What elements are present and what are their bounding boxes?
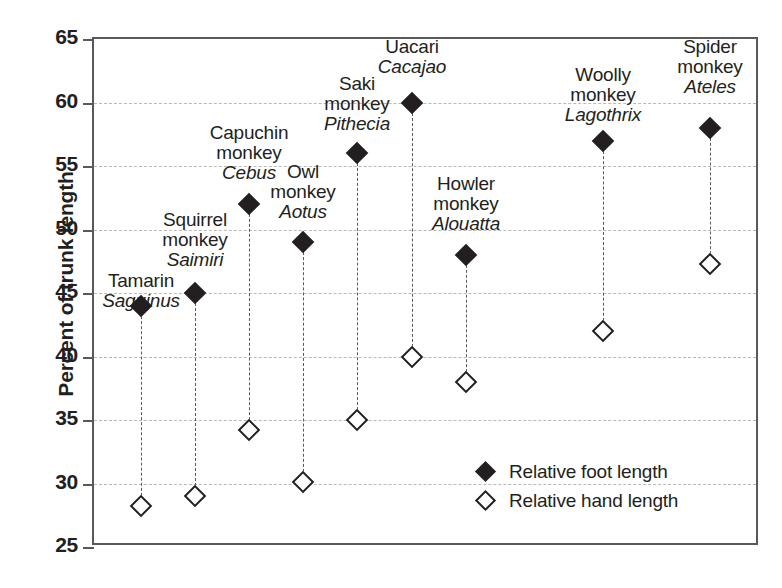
species-label: UacariCacajao <box>352 37 472 77</box>
species-genus-name: Ateles <box>650 77 770 97</box>
hollow-diamond-icon <box>475 490 496 511</box>
y-tick-label-55: 55 <box>18 153 78 174</box>
species-genus-name: Lagothrix <box>543 105 663 125</box>
y-tick-65 <box>83 39 94 41</box>
legend-item-foot: Relative foot length <box>476 457 678 486</box>
species-genus-name: Saguinus <box>81 291 201 311</box>
species-genus-name: Pithecia <box>297 114 417 134</box>
legend-label-hand: Relative hand length <box>509 486 678 515</box>
gridline-35 <box>94 420 756 421</box>
species-common-name-line: monkey <box>135 230 255 250</box>
y-tick-label-30: 30 <box>18 471 78 492</box>
species-genus-name: Saimiri <box>135 250 255 270</box>
species-common-name-line: Owl <box>243 162 363 182</box>
connector-stem <box>195 293 196 496</box>
data-point-hand-length <box>346 409 369 432</box>
y-tick-label-25: 25 <box>18 534 78 555</box>
species-common-name-line: Howler <box>406 174 526 194</box>
species-label: SquirrelmonkeySaimiri <box>135 210 255 270</box>
y-tick-label-60: 60 <box>18 90 78 111</box>
scatter-chart-figure: Percent of trunk length TamarinSaguinusS… <box>0 0 782 588</box>
species-common-name-line: Woolly <box>543 65 663 85</box>
data-point-hand-length <box>130 495 153 518</box>
y-tick-label-50: 50 <box>18 217 78 238</box>
connector-stem <box>603 141 604 332</box>
data-point-hand-length <box>184 485 207 508</box>
data-point-foot-length <box>592 129 615 152</box>
species-genus-name: Aotus <box>243 202 363 222</box>
species-label: TamarinSaguinus <box>81 271 201 311</box>
species-common-name-line: monkey <box>543 85 663 105</box>
y-tick-55 <box>83 166 94 168</box>
species-common-name-line: Tamarin <box>81 271 201 291</box>
species-label: SakimonkeyPithecia <box>297 74 417 134</box>
species-common-name-line: monkey <box>189 143 309 163</box>
data-point-hand-length <box>238 419 261 442</box>
species-common-name-line: Squirrel <box>135 210 255 230</box>
species-common-name-line: Spider <box>650 37 770 57</box>
y-tick-label-45: 45 <box>18 280 78 301</box>
y-tick-label-35: 35 <box>18 407 78 428</box>
data-point-hand-length <box>455 371 478 394</box>
species-genus-name: Cacajao <box>352 57 472 77</box>
species-label: SpidermonkeyAteles <box>650 37 770 97</box>
species-common-name-line: Saki <box>297 74 417 94</box>
data-point-foot-length <box>292 231 315 254</box>
chart-legend: Relative foot length Relative hand lengt… <box>476 457 678 515</box>
data-point-foot-length <box>455 244 478 267</box>
y-tick-30 <box>83 484 94 486</box>
species-common-name-line: Uacari <box>352 37 472 57</box>
plot-area: TamarinSaguinusSquirrelmonkeySaimiriCapu… <box>92 37 758 545</box>
data-point-foot-length <box>699 117 722 140</box>
species-common-name-line: Capuchin <box>189 123 309 143</box>
y-tick-60 <box>83 103 94 105</box>
y-tick-label-65: 65 <box>18 26 78 47</box>
y-tick-25 <box>83 547 94 549</box>
y-tick-label-40: 40 <box>18 344 78 365</box>
y-tick-40 <box>83 357 94 359</box>
y-tick-35 <box>83 420 94 422</box>
data-point-hand-length <box>292 471 315 494</box>
species-common-name-line: monkey <box>650 57 770 77</box>
legend-label-foot: Relative foot length <box>509 457 668 486</box>
legend-item-hand: Relative hand length <box>476 486 678 515</box>
connector-stem <box>466 255 467 382</box>
species-genus-name: Alouatta <box>406 214 526 234</box>
species-common-name-line: monkey <box>297 94 417 114</box>
connector-stem <box>141 306 142 507</box>
species-label: WoollymonkeyLagothrix <box>543 65 663 125</box>
gridline-40 <box>94 357 756 358</box>
data-point-hand-length <box>401 345 424 368</box>
y-tick-50 <box>83 230 94 232</box>
filled-diamond-icon <box>475 461 496 482</box>
species-label: OwlmonkeyAotus <box>243 162 363 222</box>
species-label: HowlermonkeyAlouatta <box>406 174 526 234</box>
data-point-hand-length <box>699 252 722 275</box>
data-point-hand-length <box>592 320 615 343</box>
connector-stem <box>710 128 711 264</box>
species-common-name-line: monkey <box>243 182 363 202</box>
species-common-name-line: monkey <box>406 194 526 214</box>
connector-stem <box>303 242 304 482</box>
